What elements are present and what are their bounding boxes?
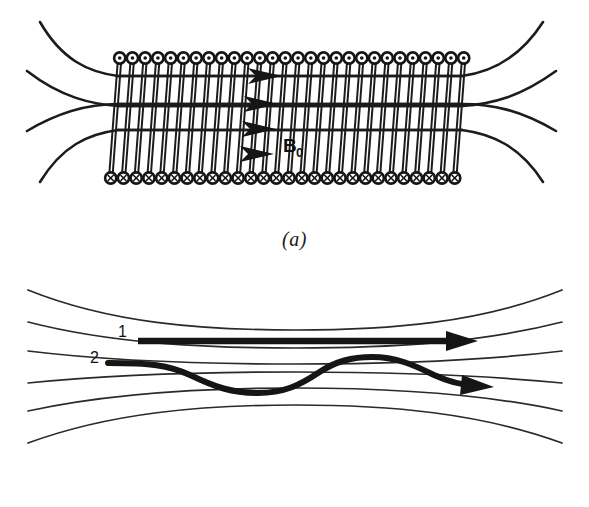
coil-current-out-dot [284, 56, 288, 60]
b0-label-main: B [283, 135, 297, 156]
field-line-b-5 [28, 388, 562, 411]
coil-current-out-dot [296, 56, 300, 60]
left-flare-field-lines [27, 22, 118, 182]
trajectory-1-straight: 1 [118, 323, 478, 351]
coil-current-out-dot [424, 56, 428, 60]
panel-a-svg: B 0 [0, 0, 589, 225]
coil-row-top-dots [114, 52, 469, 63]
field-line-right-upper-inner [462, 71, 556, 106]
field-line-right-lower-outer [462, 130, 543, 182]
coil-current-out-dot [347, 56, 351, 60]
panel-a-solenoid: B 0 (a) [0, 0, 589, 265]
trajectory-1-label: 1 [118, 323, 127, 340]
coil-current-out-dot [194, 56, 198, 60]
coil-current-out-dot [182, 56, 186, 60]
coil-current-out-dot [411, 56, 415, 60]
coil-row-bottom-crosses [105, 172, 460, 183]
field-line-b-4 [28, 372, 562, 383]
coil-current-out-dot [398, 56, 402, 60]
b0-label-subscript: 0 [296, 145, 303, 160]
panel-b-field-lines [28, 290, 562, 443]
coil-current-out-dot [309, 56, 313, 60]
field-line-left-upper-inner [27, 71, 118, 106]
field-line-right-lower-inner [462, 104, 556, 131]
coil-current-out-dot [169, 56, 173, 60]
physics-figure: B 0 (a) 1 [0, 0, 589, 507]
coil-current-out-dot [156, 56, 160, 60]
coil-current-out-dot [207, 56, 211, 60]
coil-current-out-dot [462, 56, 466, 60]
coil-current-out-dot [449, 56, 453, 60]
coil-current-out-dot [131, 56, 135, 60]
coil-current-out-dot [436, 56, 440, 60]
coil-current-out-dot [143, 56, 147, 60]
field-line-right-upper-outer [462, 22, 543, 76]
coil-current-out-dot [118, 56, 122, 60]
coil-current-out-dot [271, 56, 275, 60]
field-line-left-upper-outer [40, 22, 118, 76]
arrowhead-field-4 [240, 146, 274, 162]
coil-current-out-dot [373, 56, 377, 60]
panel-b-svg: 1 2 [0, 265, 589, 465]
field-line-b-6 [28, 405, 562, 443]
trajectory-2-label: 2 [90, 349, 99, 366]
coil-current-out-dot [245, 56, 249, 60]
field-line-left-lower-inner [27, 104, 118, 131]
coil-current-out-dot [220, 56, 224, 60]
coil-current-out-dot [258, 56, 262, 60]
coil-current-out-dot [322, 56, 326, 60]
coil-current-out-dot [334, 56, 338, 60]
coil-current-out-dot [385, 56, 389, 60]
coil-current-out-dot [360, 56, 364, 60]
panel-a-caption: (a) [0, 228, 589, 251]
panel-b-trajectories: 1 2 (b) [0, 265, 589, 507]
coil-current-out-dot [233, 56, 237, 60]
right-flare-field-lines [462, 22, 556, 182]
trajectory-1-arrowhead [446, 331, 478, 351]
field-line-b-1 [28, 290, 562, 330]
